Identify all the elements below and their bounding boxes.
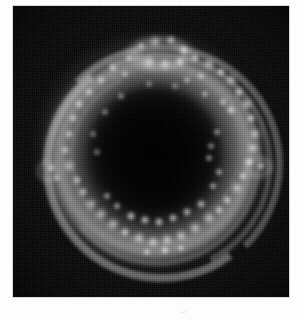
caption-strip: shell-like structure with bright filamen… [13,311,289,320]
figure-caption: shell-like structure with bright filamen… [13,311,289,313]
astronomical-image-panel [13,6,289,297]
image-vignette [13,6,289,297]
figure-root: shell-like structure with bright filamen… [0,0,304,320]
